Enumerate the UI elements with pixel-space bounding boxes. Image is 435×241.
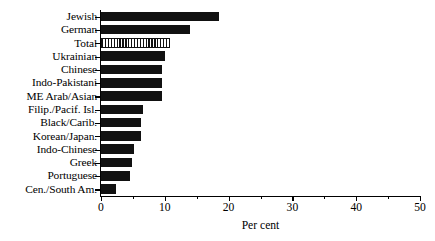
x-tick-label: 20: [209, 201, 249, 215]
x-tick-label: 40: [336, 201, 376, 215]
bar-jewish: [101, 12, 219, 22]
category-label: German: [0, 23, 97, 36]
category-tick: [95, 123, 101, 124]
plot-area: [101, 10, 420, 196]
bar-row: [101, 183, 420, 196]
bar-total: [101, 38, 170, 48]
category-label: Ukrainian: [0, 50, 97, 63]
bar-cen-south-am: [101, 184, 116, 194]
bar-row: [101, 169, 420, 182]
category-label: ME Arab/Asian: [0, 90, 97, 103]
category-label: Chinese: [0, 63, 97, 76]
bar-korean-japan: [101, 131, 141, 141]
category-tick: [95, 30, 101, 31]
bar-row: [101, 50, 420, 63]
category-label: Indo-Pakistani: [0, 76, 97, 89]
bar-row: [101, 37, 420, 50]
category-tick: [95, 163, 101, 164]
category-label: Total: [0, 37, 97, 50]
x-tick-minor: [197, 196, 198, 199]
bar-row: [101, 63, 420, 76]
bar-row: [101, 23, 420, 36]
category-tick: [95, 96, 101, 97]
bar-row: [101, 130, 420, 143]
category-tick: [95, 17, 101, 18]
bar-me-arab-asian: [101, 91, 162, 101]
bar-german: [101, 25, 190, 35]
bar-ukrainian: [101, 51, 165, 61]
bar-indo-pakistani: [101, 78, 162, 88]
category-label: Portuguese: [0, 169, 97, 182]
x-tick-minor: [388, 196, 389, 199]
bar-portuguese: [101, 171, 130, 181]
category-label: Filip./Pacif. Isl.: [0, 103, 97, 116]
x-tick-label: 30: [272, 201, 312, 215]
x-tick-label: 50: [400, 201, 435, 215]
category-tick: [95, 176, 101, 177]
bar-greek: [101, 158, 132, 168]
x-tick-label: 10: [145, 201, 185, 215]
bar-row: [101, 90, 420, 103]
bar-row: [101, 76, 420, 89]
y-axis-line: [100, 10, 101, 197]
category-label: Greek: [0, 156, 97, 169]
category-tick: [95, 70, 101, 71]
category-label: Cen./South Am.: [0, 183, 97, 196]
category-tick: [95, 83, 101, 84]
category-tick: [95, 43, 101, 44]
bar-rows: [101, 10, 420, 196]
category-tick: [95, 136, 101, 137]
x-tick-minor: [133, 196, 134, 199]
category-label: Indo-Chinese: [0, 143, 97, 156]
x-axis-title: Per cent: [101, 219, 420, 232]
bar-filip-pacif-isl: [101, 105, 143, 115]
category-label: Korean/Japan.: [0, 130, 97, 143]
category-axis-labels: JewishGermanTotalUkrainianChineseIndo-Pa…: [0, 10, 97, 196]
x-tick-minor: [324, 196, 325, 199]
category-tick: [95, 57, 101, 58]
category-label: Jewish: [0, 10, 97, 23]
category-tick: [95, 110, 101, 111]
bar-chart: JewishGermanTotalUkrainianChineseIndo-Pa…: [0, 0, 435, 241]
category-label: Black/Carib.: [0, 116, 97, 129]
bar-row: [101, 156, 420, 169]
bar-row: [101, 143, 420, 156]
bar-chinese: [101, 65, 162, 75]
x-tick-label: 0: [81, 201, 121, 215]
bar-row: [101, 103, 420, 116]
x-tick-minor: [261, 196, 262, 199]
bar-row: [101, 116, 420, 129]
category-tick: [95, 150, 101, 151]
bar-black-carib: [101, 118, 141, 128]
bar-row: [101, 10, 420, 23]
bar-indo-chinese: [101, 144, 134, 154]
category-tick: [95, 189, 101, 190]
